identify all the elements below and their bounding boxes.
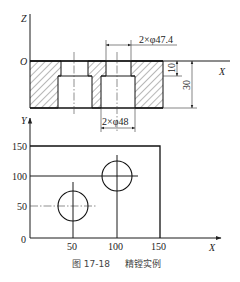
y-tick-100: 100 (12, 171, 27, 182)
dim-small-bore: 2×φ47.4 (106, 34, 177, 61)
dim-large-bore: 2×φ48 (101, 108, 135, 132)
y-axis-label: Y (21, 115, 28, 126)
figure-number: 图 17-18 (72, 259, 110, 269)
x-axis-label-plan: X (208, 242, 216, 253)
z-axis-label: Z (21, 13, 27, 24)
x-tick-150: 150 (151, 241, 166, 252)
dim-depth-30-text: 30 (181, 80, 192, 90)
y-tick-0: 0 (21, 234, 26, 245)
part-cross-section (30, 61, 163, 108)
part-outline (30, 146, 160, 238)
dim-large-bore-text: 2×φ48 (102, 116, 128, 127)
dim-depth-10-text: 10 (166, 63, 177, 73)
y-tick-50: 50 (17, 201, 27, 212)
y-tick-150: 150 (12, 141, 27, 152)
plan-view: Y X 150 100 50 0 50 100 150 (12, 115, 221, 253)
x-tick-100: 100 (108, 241, 123, 252)
figure-caption: 图 17-18 精镗实例 (72, 258, 161, 269)
x-tick-50: 50 (67, 241, 77, 252)
figure-title: 精镗实例 (125, 258, 161, 269)
hole-1 (30, 182, 96, 238)
origin-label: O (20, 56, 27, 67)
section-view: Z O X 2×φ47.4 (20, 13, 230, 132)
x-axis-label-section: X (218, 66, 226, 77)
dim-depth-10: 10 (163, 61, 182, 76)
dim-small-bore-text: 2×φ47.4 (139, 34, 173, 45)
drawing-canvas: Z O X 2×φ47.4 (0, 0, 240, 282)
